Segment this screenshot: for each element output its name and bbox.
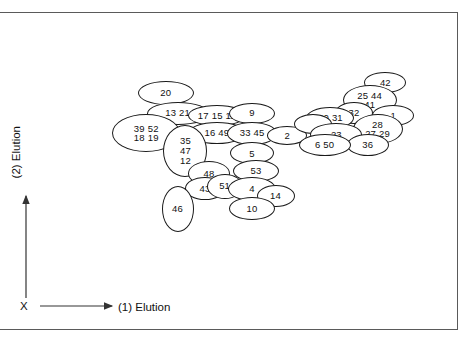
spot-label: 5	[249, 149, 254, 159]
spot-ellipse-46: 46	[162, 186, 194, 232]
spot-label: 10	[247, 204, 258, 214]
spot-label: 46	[172, 204, 183, 214]
spot-label: 4	[249, 184, 254, 194]
spot-ellipse-9: 9	[229, 103, 275, 124]
spot-label: 2	[285, 131, 290, 141]
spot-label: 9	[249, 108, 254, 118]
axis-origin-marker: X	[20, 300, 28, 312]
spot-label: 36	[362, 140, 373, 150]
spot-label: 53	[251, 166, 262, 176]
spot-ellipse-36: 36	[347, 134, 389, 156]
x-axis-label: (1) Elution	[118, 301, 170, 313]
spot-label: 13 21	[165, 108, 190, 118]
spot-label: 14	[270, 191, 281, 201]
spot-ellipse-6-50: 6 50	[299, 134, 351, 156]
spot-label: 33 45	[240, 128, 265, 138]
spot-ellipse-20: 20	[138, 81, 194, 105]
figure-panel: X (2) Elution (1) Elution 2013 2117 15 1…	[0, 0, 472, 353]
spot-label: 20	[160, 88, 171, 98]
y-axis-label: (2) Elution	[10, 126, 22, 178]
spot-label: 6 50	[315, 140, 334, 150]
spot-label: 16 49	[204, 128, 229, 138]
spot-label: 18 19	[134, 133, 159, 143]
spot-label: 12	[180, 156, 191, 166]
